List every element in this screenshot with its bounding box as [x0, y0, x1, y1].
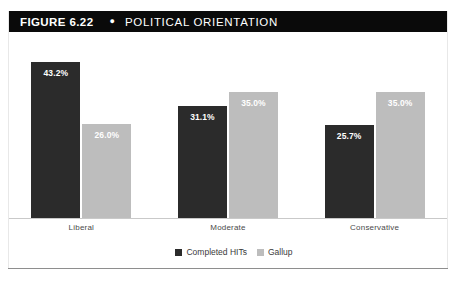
figure-number: FIGURE 6.22: [20, 16, 93, 28]
frame-bottom-border: [8, 268, 448, 269]
bar-value-label: 31.1%: [178, 112, 227, 122]
legend-label: Gallup: [268, 247, 293, 257]
frame-left-border: [8, 11, 9, 269]
bar[interactable]: 43.2%: [31, 62, 80, 218]
bar-value-label: 25.7%: [325, 131, 374, 141]
bar[interactable]: 31.1%: [178, 106, 227, 218]
bar-value-label: 35.0%: [229, 98, 278, 108]
bar-group: 25.7%35.0%: [301, 38, 448, 218]
bar-value-label: 43.2%: [31, 68, 80, 78]
bar[interactable]: 35.0%: [376, 92, 425, 218]
frame-right-border: [447, 11, 448, 269]
bar[interactable]: 25.7%: [325, 125, 374, 218]
figure-container: FIGURE 6.22 ● POLITICAL ORIENTATION 43.2…: [0, 0, 468, 281]
bar-group: 31.1%35.0%: [155, 38, 302, 218]
legend-item[interactable]: Completed HITs: [175, 247, 246, 257]
legend-swatch-icon: [175, 249, 182, 256]
legend-label: Completed HITs: [186, 247, 246, 257]
chart-legend: Completed HITsGallup: [0, 247, 468, 257]
bar-value-label: 26.0%: [82, 130, 131, 140]
x-axis-line: [8, 218, 448, 219]
category-label: Moderate: [155, 223, 302, 232]
bar[interactable]: 26.0%: [82, 124, 131, 218]
legend-item[interactable]: Gallup: [257, 247, 293, 257]
category-label: Liberal: [8, 223, 155, 232]
category-label: Conservative: [301, 223, 448, 232]
bar[interactable]: 35.0%: [229, 92, 278, 218]
bar-value-label: 35.0%: [376, 98, 425, 108]
x-axis-category-labels: LiberalModerateConservative: [8, 223, 448, 239]
legend-swatch-icon: [257, 249, 264, 256]
chart-plot-area: 43.2%26.0%31.1%35.0%25.7%35.0%: [8, 38, 448, 218]
bullet-icon: ●: [109, 17, 114, 26]
figure-title: POLITICAL ORIENTATION: [125, 16, 278, 28]
bar-group: 43.2%26.0%: [8, 38, 155, 218]
figure-title-bar: FIGURE 6.22 ● POLITICAL ORIENTATION: [8, 11, 448, 32]
